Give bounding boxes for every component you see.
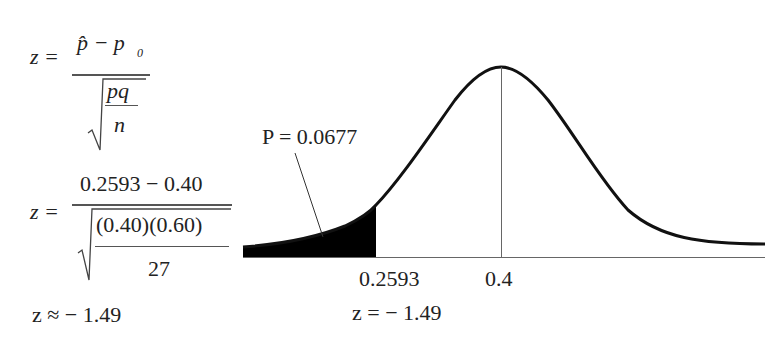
numerator-phat-minus-p: p̂ − p bbox=[77, 32, 125, 54]
z-result: z ≈ − 1.49 bbox=[32, 304, 121, 326]
inner-numerator-pq: pq bbox=[107, 80, 129, 102]
fraction-bar bbox=[72, 74, 150, 76]
z-score-label: z = − 1.49 bbox=[352, 302, 442, 324]
tick-label-0.2593: 0.2593 bbox=[359, 268, 420, 290]
fraction-bar-2 bbox=[72, 204, 232, 206]
inner-fraction-bar-2 bbox=[95, 246, 229, 247]
z-equals-label: z = bbox=[30, 46, 59, 68]
bell-curve bbox=[243, 67, 765, 247]
shaded-tail-region bbox=[243, 205, 376, 258]
inner-fraction-bar bbox=[105, 105, 138, 106]
numerator-values: 0.2593 − 0.40 bbox=[80, 173, 202, 195]
inner-denominator-27: 27 bbox=[148, 258, 170, 280]
p-value-label: P = 0.0677 bbox=[262, 126, 357, 148]
z-equals-label-2: z = bbox=[30, 201, 59, 223]
inner-denominator-n: n bbox=[114, 114, 125, 136]
tick-label-mean: 0.4 bbox=[485, 268, 513, 290]
inner-numerator-values: (0.40)(0.60) bbox=[96, 214, 202, 236]
p-value-leader-line bbox=[295, 153, 323, 237]
p-subscript: 0 bbox=[137, 46, 143, 61]
